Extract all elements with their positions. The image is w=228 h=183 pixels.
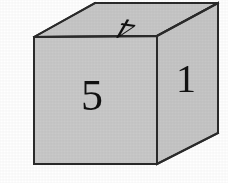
cube-drawing: 5 1 4: [0, 0, 228, 183]
cube-figure: 5 1 4: [0, 0, 228, 183]
cube-edge-front-top: [34, 36, 157, 37]
front-face-number: 5: [81, 71, 103, 120]
right-face-number: 1: [176, 56, 196, 101]
